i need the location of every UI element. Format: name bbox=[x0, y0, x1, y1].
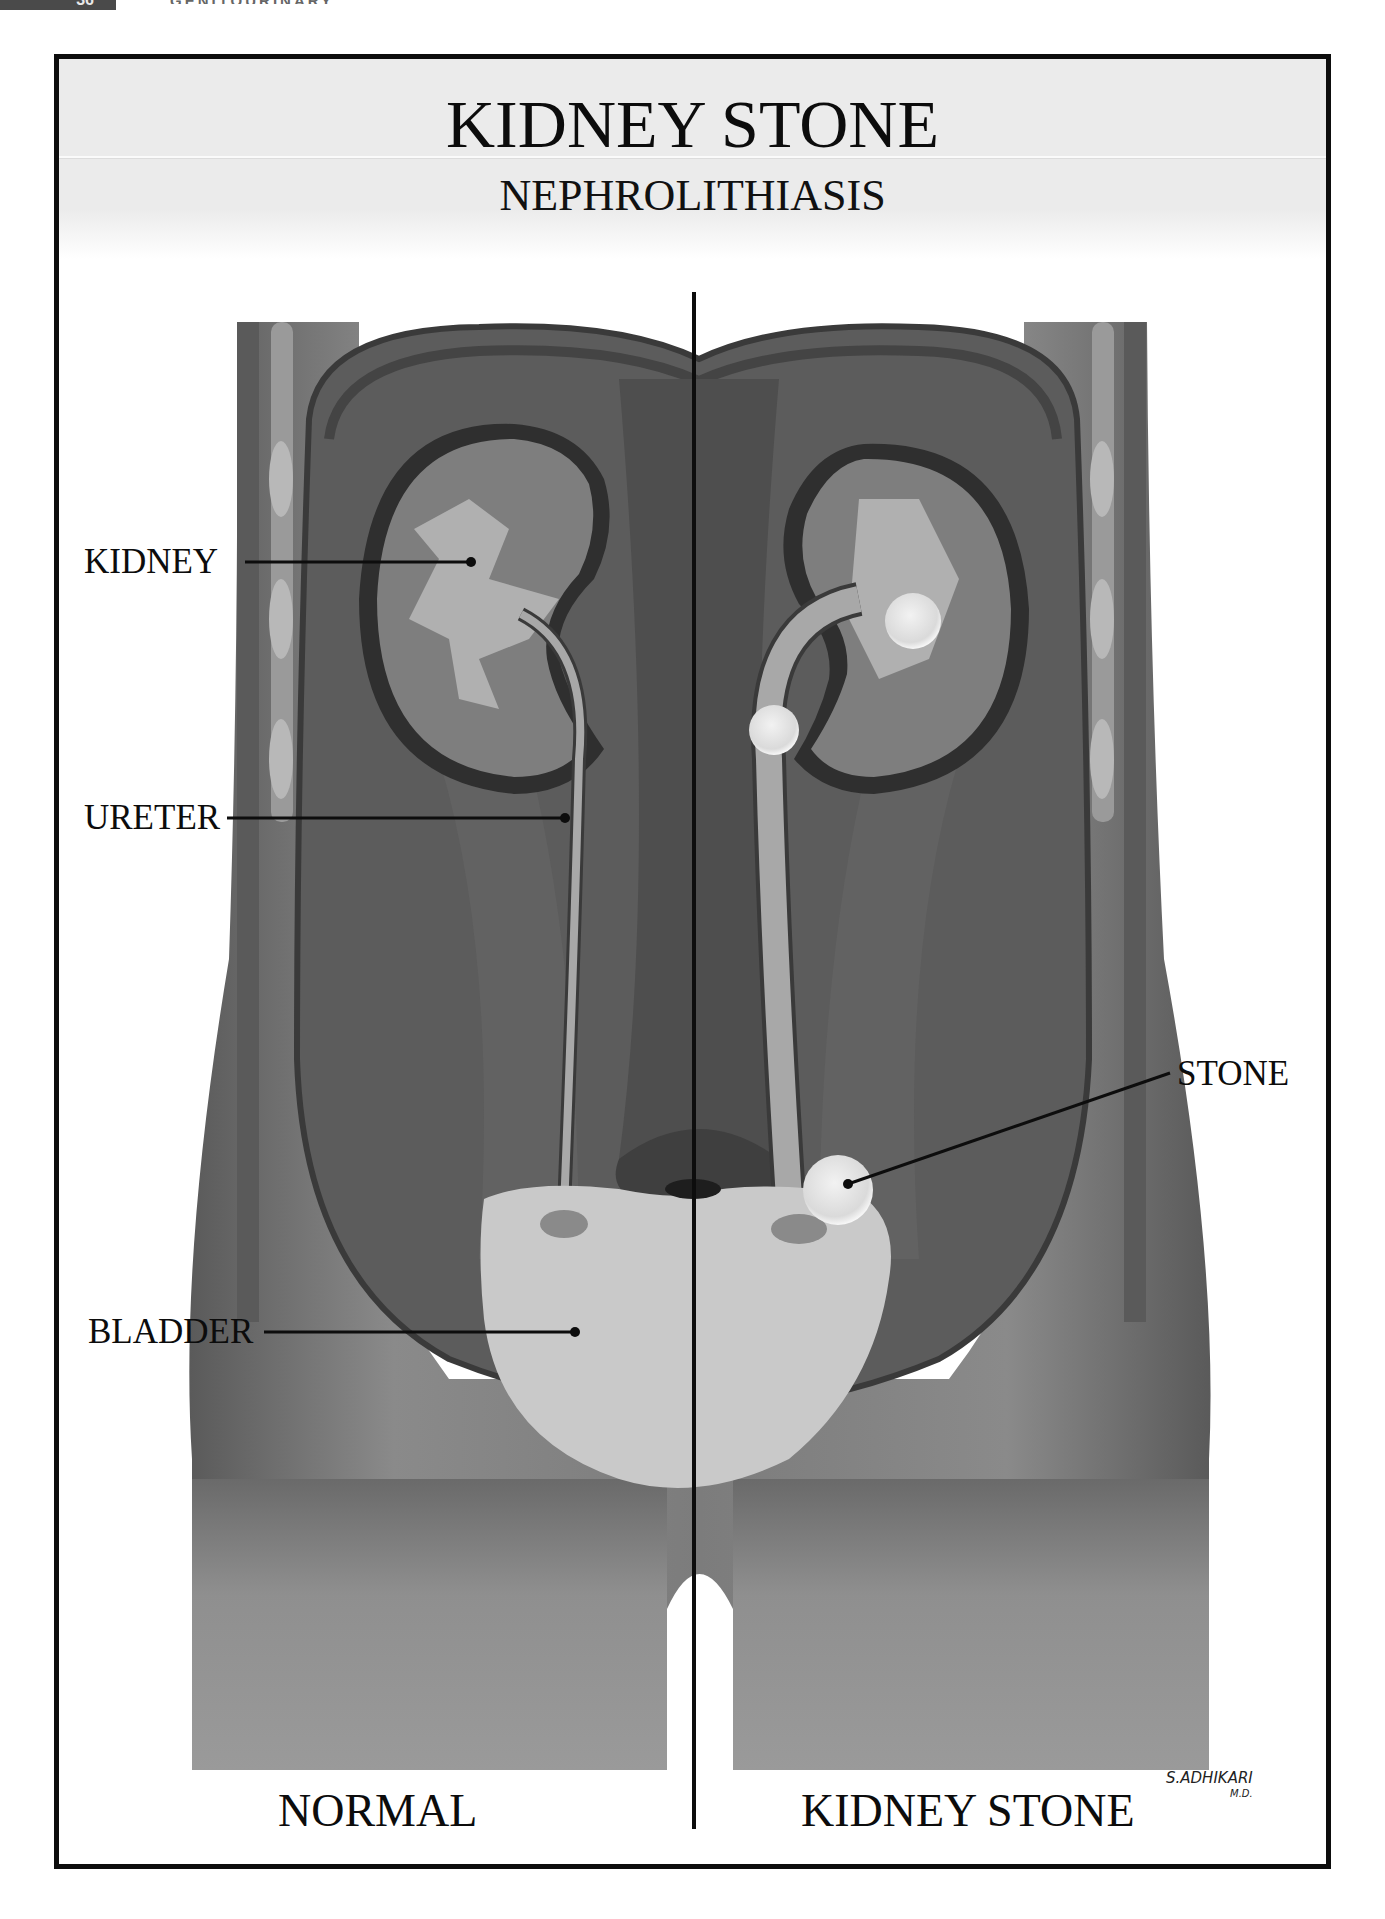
signature-credential: M.D. bbox=[1166, 1786, 1253, 1802]
distal-ureteral-stone bbox=[803, 1155, 873, 1225]
upper-ureteral-stone bbox=[749, 705, 799, 755]
signature-name: S.ADHIKARI bbox=[1166, 1769, 1253, 1787]
figure-frame: KIDNEY STONE NEPHROLITHIASIS bbox=[54, 54, 1331, 1869]
page-number: 36 bbox=[76, 0, 94, 9]
anatomy-illustration bbox=[59, 59, 1326, 1864]
label-bladder: BLADDER bbox=[88, 1313, 253, 1351]
right-thigh bbox=[733, 1479, 1209, 1770]
running-head: GENITOURINARY bbox=[170, 0, 334, 4]
left-ureteric-orifice bbox=[540, 1210, 588, 1238]
renal-stone bbox=[885, 593, 941, 649]
panel-label-normal: NORMAL bbox=[278, 1787, 477, 1835]
artist-signature: S.ADHIKARI M.D. bbox=[1166, 1770, 1253, 1802]
label-ureter: URETER bbox=[84, 799, 220, 837]
label-kidney: KIDNEY bbox=[84, 543, 218, 581]
left-thigh bbox=[192, 1479, 667, 1770]
page-number-tab: 36 bbox=[0, 0, 116, 10]
panel-label-kidney-stone: KIDNEY STONE bbox=[801, 1787, 1134, 1835]
label-stone: STONE bbox=[1177, 1055, 1289, 1093]
